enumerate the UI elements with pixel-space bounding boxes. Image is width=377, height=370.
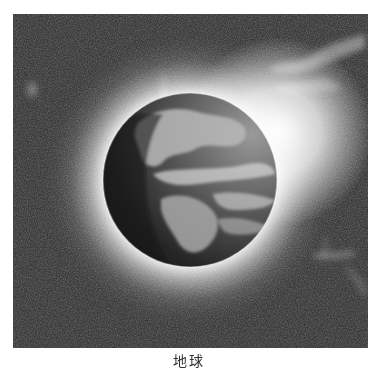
earth-illustration <box>13 14 368 348</box>
earth-photo <box>13 14 368 348</box>
figure-caption: 地球 <box>0 352 377 370</box>
